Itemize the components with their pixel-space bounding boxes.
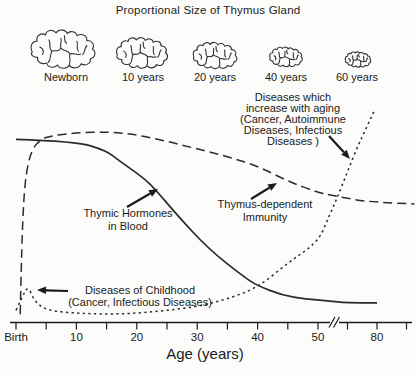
chart-series — [16, 109, 414, 314]
annotation-thymus-immunity: Thymus-dependentImmunity — [218, 198, 313, 223]
annotation-arrow-diseases-aging — [329, 136, 344, 152]
curve-thymic-hormones-in-blood — [16, 139, 377, 302]
axis-tick-label: 40 — [251, 331, 264, 343]
axis-tick-label: 10 — [70, 331, 83, 343]
thymus-gland-figure: Proportional Size of Thymus Gland Newbor… — [0, 0, 416, 377]
axis-tick-label: 20 — [130, 331, 143, 343]
axis-tick-label: 50 — [312, 331, 325, 343]
curve-diseases-incidence-childhood-peak-rising-with-aging — [16, 109, 375, 314]
x-axis: Birth102030405080Age (years) — [4, 317, 412, 362]
curve-thymus-dependent-immunity — [20, 132, 414, 314]
annotation-thymic-hormones: Thymic Hormonesin Blood — [83, 207, 173, 232]
axis-tick-label: Birth — [4, 331, 28, 343]
axis-tick-label: 30 — [191, 331, 204, 343]
annotation-arrowhead-diseases-childhood — [37, 287, 46, 294]
annotation-arrow-thymic-hormones — [127, 194, 150, 207]
annotation-arrow-diseases-childhood — [46, 290, 68, 291]
annotation-diseases-childhood: Diseases of Childhood(Cancer, Infectious… — [68, 284, 212, 308]
axis-tick-label: 80 — [371, 331, 384, 343]
chart-annotations: Diseases whichincrease with aging(Cancer… — [37, 91, 350, 308]
x-axis-title: Age (years) — [166, 345, 244, 362]
age-line-chart: Birth102030405080Age (years)Diseases whi… — [0, 0, 416, 377]
